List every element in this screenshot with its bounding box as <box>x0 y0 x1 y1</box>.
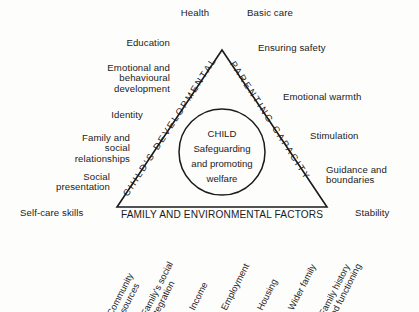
core-label-safeguarding: Safeguarding <box>193 143 250 154</box>
edge-label-childs-developmental-needs: CHILD'S DEVELOPMENTAL NEEDS <box>0 0 221 198</box>
core-label-child: CHILD <box>208 128 237 139</box>
triangle-figure: CHILD'S DEVELOPMENTAL NEEDS PARENTING CA… <box>0 0 419 312</box>
core-label-welfare: welfare <box>206 173 238 184</box>
edge-label-family-and-environmental-factors: FAMILY AND ENVIRONMENTAL FACTORS <box>121 209 323 220</box>
core-label-and-promoting: and promoting <box>191 158 252 169</box>
assessment-framework-diagram: Health Basic care Education Emotional an… <box>0 0 419 312</box>
